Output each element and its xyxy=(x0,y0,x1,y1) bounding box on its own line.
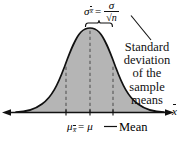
standard-error-fraction: σ √n xyxy=(104,0,119,23)
mu-symbol-population: μ xyxy=(87,120,93,132)
x-axis-label: x xyxy=(172,105,177,117)
sampling-distribution-figure: σx̅ = σ √n Standard deviation of the sam… xyxy=(0,0,183,141)
mean-word-label: Mean xyxy=(119,120,147,135)
callout-text-block: Standard deviation of the sample means xyxy=(113,41,181,107)
xbar-glyph: x xyxy=(172,105,177,117)
fraction-numerator: σ xyxy=(107,0,116,11)
mean-equality-label: μx̅=μ xyxy=(67,120,93,134)
sigma-subscript-xbar: x̅ xyxy=(89,7,93,15)
callout-line-3: of the xyxy=(113,67,181,80)
equals-sign: = xyxy=(93,5,104,17)
mean-equals-sign: = xyxy=(76,120,87,132)
callout-line-5: means xyxy=(113,94,181,107)
formula-leader-line xyxy=(131,16,151,41)
standard-error-formula: σx̅ = σ √n xyxy=(84,1,119,21)
mu-subscript-xbar: x̅ xyxy=(73,126,77,134)
denominator-n: n xyxy=(112,13,117,23)
callout-line-4: sample xyxy=(113,81,181,94)
axis-arrow-left-icon xyxy=(2,109,11,115)
fraction-denominator: √n xyxy=(104,12,119,23)
